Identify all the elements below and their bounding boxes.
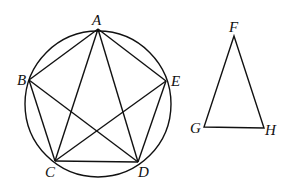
circumcircle (25, 31, 171, 177)
segment-BD (29, 80, 138, 162)
point-labels: A B C D E F G H (17, 12, 277, 180)
segment-BC (29, 80, 55, 161)
label-H: H (264, 122, 277, 138)
label-E: E (170, 73, 180, 89)
segment-AB (29, 29, 98, 80)
geometry-diagram: A B C D E F G H (0, 0, 296, 188)
segment-EA (98, 29, 166, 81)
label-A: A (91, 12, 102, 28)
segment-CE (55, 81, 166, 161)
triangle-outline (204, 36, 264, 128)
segment-DE (138, 81, 166, 162)
segment-AC (55, 29, 98, 161)
segment-CD (55, 161, 138, 162)
label-C: C (45, 164, 56, 180)
label-F: F (228, 19, 239, 35)
label-B: B (17, 72, 26, 88)
label-D: D (137, 164, 149, 180)
triangle-FGH (204, 36, 264, 128)
label-G: G (190, 120, 201, 136)
segment-AD (98, 29, 138, 162)
